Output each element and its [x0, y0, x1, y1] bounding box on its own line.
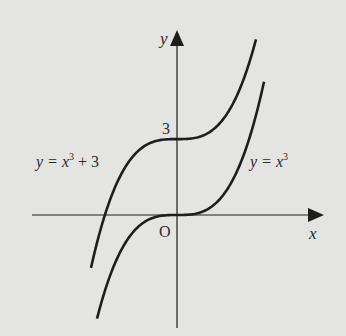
x-axis-label: x [308, 224, 317, 243]
curve-label-shifted-main: y = x [34, 153, 69, 171]
curve-label-base: y = x3 [248, 151, 288, 171]
intercept-label: 3 [162, 120, 170, 137]
x-axis-arrow [308, 208, 324, 222]
y-axis-label: y [158, 29, 168, 48]
curve-x-cubed-plus-3 [91, 39, 256, 268]
origin-label: O [159, 223, 171, 240]
y-axis-arrow [170, 30, 184, 46]
curve-label-base-exp: 3 [283, 151, 288, 162]
curve-x-cubed [97, 82, 264, 319]
graph: y x O 3 y = x3 + 3 y = x3 [0, 0, 346, 336]
curve-label-base-main: y = x [248, 153, 283, 171]
curve-label-shifted: y = x3 + 3 [34, 151, 99, 171]
curve-label-shifted-tail: + 3 [74, 153, 99, 170]
